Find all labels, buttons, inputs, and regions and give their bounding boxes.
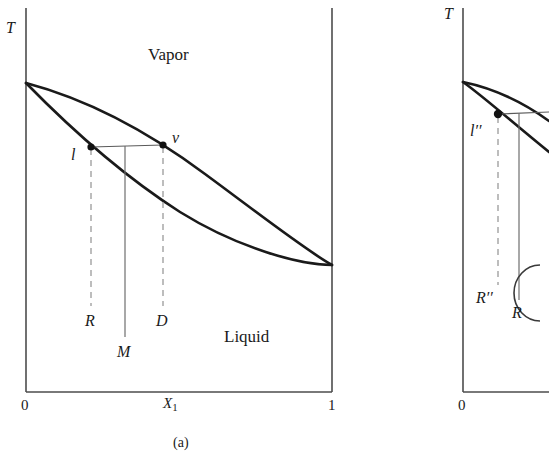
panel-a-xtick-center-subscript: 1 (172, 401, 177, 413)
phase-diagram-svg (0, 0, 549, 459)
panel-b-y-axis-label: T (444, 6, 453, 22)
dew-curve (26, 83, 332, 265)
panel-b-point-label-lpp: l′′ (470, 123, 481, 139)
panel-b-bubble-curve (463, 82, 549, 152)
panel-a-xtick-1: 1 (328, 398, 336, 413)
point-label-v: v (172, 130, 179, 146)
drop-label-R: R (85, 313, 95, 329)
panel-b-group (463, 8, 549, 392)
panel-a-group (26, 8, 332, 392)
drop-label-D: D (156, 313, 168, 329)
panel-b-drop-label-R: R (512, 305, 522, 321)
panel-a-xtick-center: X1 (163, 396, 178, 413)
figure-caption: (a) (173, 436, 189, 450)
tie-line (91, 145, 163, 147)
panel-b-marker-point-lpp (494, 110, 502, 118)
bubble-curve (26, 83, 332, 265)
panel-b-xtick-0: 0 (458, 398, 466, 413)
marker-point-v (159, 141, 166, 148)
drop-label-M: M (117, 344, 130, 360)
panel-a-xtick-center-letter: X (163, 395, 172, 411)
panel-a-xtick-0: 0 (21, 398, 29, 413)
panel-b-tie-line (498, 112, 549, 114)
panel-a-y-axis-label: T (6, 20, 15, 36)
region-label-liquid: Liquid (224, 328, 269, 345)
figure-canvas: T Vapor Liquid l v R M D 0 X1 1 (a) T l′… (0, 0, 549, 459)
region-label-vapor: Vapor (148, 46, 189, 63)
point-label-l: l (71, 147, 75, 163)
marker-point-l (87, 143, 94, 150)
panel-b-drop-label-Rpp: R′′ (476, 290, 493, 306)
